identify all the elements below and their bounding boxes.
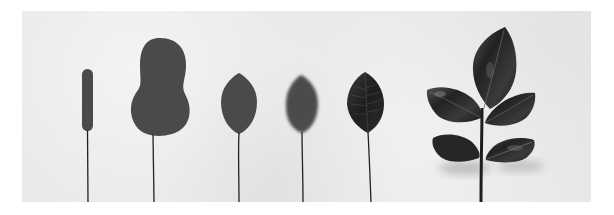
blurred-oval-leaf <box>286 75 318 202</box>
smooth-oval-leaf <box>221 73 257 202</box>
leaf-scene <box>0 0 614 215</box>
compound-leaf-sprig <box>427 27 544 202</box>
peanut-blob-leaf <box>131 38 190 202</box>
elongated-blob-leaf <box>82 69 93 202</box>
veined-dark-leaf <box>347 72 384 202</box>
